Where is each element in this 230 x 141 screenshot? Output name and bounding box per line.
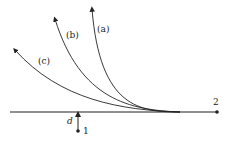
point-2 [215,110,219,114]
curve-a-label: (a) [97,24,109,34]
point-1 [76,129,80,133]
point-1-label: 1 [83,126,89,136]
point-2-label: 2 [213,97,219,107]
distance-label: d [67,116,73,126]
curve-b-label: (b) [66,30,79,40]
curve-c-label: (c) [38,56,50,66]
trajectory-diagram: 2 (a) (b) (c) 1 d [0,0,230,141]
